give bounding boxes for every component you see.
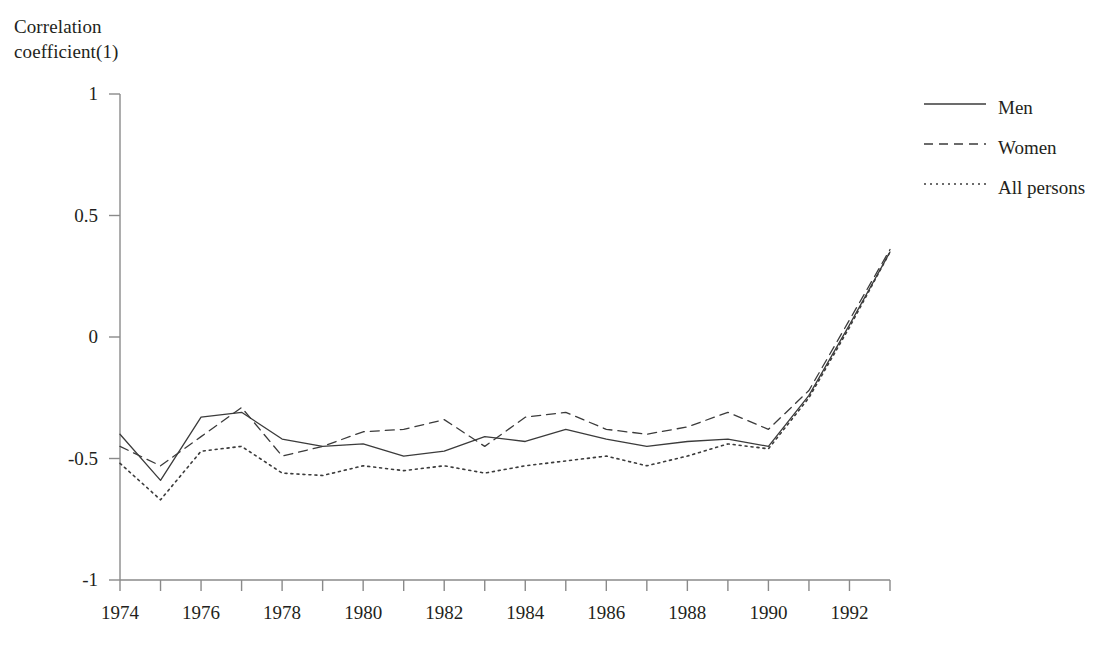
axis-ticks: [109, 94, 890, 591]
legend-line-swatch-icon: [924, 182, 986, 194]
series-line-women: [120, 250, 890, 466]
x-tick-label: 1974: [101, 602, 139, 624]
series-line-all-persons: [120, 252, 890, 500]
y-tick-label: 0: [0, 326, 98, 348]
x-tick-label: 1976: [182, 602, 220, 624]
series-line-men: [120, 252, 890, 480]
x-tick-label: 1984: [506, 602, 544, 624]
legend-item-men[interactable]: Men: [924, 88, 1114, 128]
y-tick-label: -1: [0, 569, 98, 591]
legend-item-all-persons[interactable]: All persons: [924, 168, 1114, 208]
y-axis-title: Correlation coefficient(1): [14, 14, 118, 64]
x-tick-label: 1990: [749, 602, 787, 624]
legend-line-swatch-icon: [924, 142, 986, 154]
x-tick-label: 1978: [263, 602, 301, 624]
axes-lines: [120, 94, 890, 580]
y-tick-label: 0.5: [0, 205, 98, 227]
y-tick-label: -0.5: [0, 448, 98, 470]
y-tick-label: 1: [0, 83, 98, 105]
chart-figure: Correlation coefficient(1) 10.50-0.5-1 1…: [0, 0, 1117, 667]
legend-item-label: Women: [998, 137, 1057, 159]
legend-item-women[interactable]: Women: [924, 128, 1114, 168]
legend-item-label: Men: [998, 97, 1033, 119]
chart-legend: MenWomenAll persons: [924, 88, 1114, 208]
x-tick-label: 1988: [668, 602, 706, 624]
x-tick-label: 1986: [587, 602, 625, 624]
legend-line-swatch-icon: [924, 102, 986, 114]
x-tick-label: 1982: [425, 602, 463, 624]
x-tick-label: 1992: [830, 602, 868, 624]
data-series-lines: [120, 250, 890, 500]
x-tick-label: 1980: [344, 602, 382, 624]
legend-item-label: All persons: [998, 177, 1085, 199]
